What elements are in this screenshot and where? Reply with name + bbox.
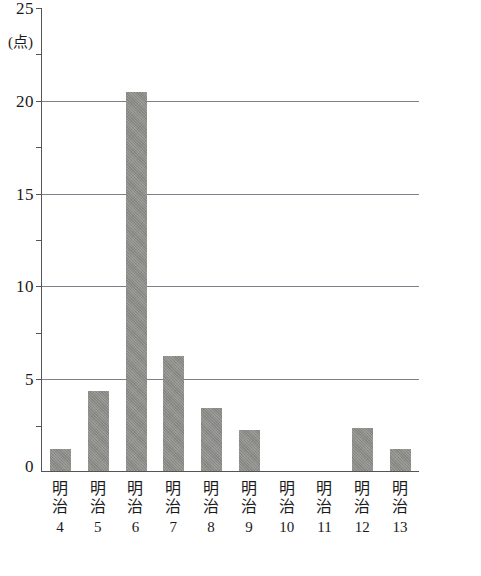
y-tick-label-5: 5 [25,371,34,388]
bar-meiji-8 [201,408,222,471]
x-label-era-5: 明治 [90,480,106,516]
x-label-year-13: 13 [393,518,408,536]
y-axis-unit-label: (点) [8,35,33,50]
x-label-era-6: 明治 [127,480,143,516]
bar-slot-meiji-9 [231,8,269,471]
x-label-meiji-10: 明治 10 [268,476,306,572]
x-label-era-4: 明治 [52,480,68,516]
x-label-era-13: 明治 [392,480,408,516]
bar-slot-meiji-10 [268,8,306,471]
bar-meiji-13 [390,449,411,471]
y-axis-labels: 25 (点) 20 15 10 5 0 [0,0,40,576]
bar-slot-meiji-7 [155,8,193,471]
bar-meiji-9 [239,430,260,471]
x-axis-labels: 明治 4 明治 5 明治 6 明治 7 明治 8 明治 9 明治 10 明治 1 [41,476,419,572]
y-tick-label-0: 0 [25,458,34,475]
x-label-meiji-12: 明治 12 [343,476,381,572]
x-label-meiji-8: 明治 8 [192,476,230,572]
x-label-meiji-9: 明治 9 [230,476,268,572]
x-label-year-6: 6 [132,518,140,536]
x-label-era-8: 明治 [203,480,219,516]
bar-slot-meiji-6 [117,8,155,471]
x-label-meiji-11: 明治 11 [306,476,344,572]
bar-slot-meiji-11 [306,8,344,471]
y-tick-label-20: 20 [16,92,34,109]
bar-slot-meiji-8 [193,8,231,471]
x-label-era-7: 明治 [165,480,181,516]
x-label-year-9: 9 [245,518,253,536]
y-tick-label-10: 10 [16,278,34,295]
x-label-era-12: 明治 [354,480,370,516]
bar-chart: 25 (点) 20 15 10 5 0 [0,0,481,576]
x-label-year-8: 8 [207,518,215,536]
x-label-meiji-5: 明治 5 [79,476,117,572]
y-tick-label-15: 15 [16,185,34,202]
plot-area [41,8,419,472]
x-label-era-9: 明治 [241,480,257,516]
x-label-year-4: 4 [56,518,64,536]
bar-meiji-12 [352,428,373,471]
bar-slot-meiji-5 [80,8,118,471]
bar-meiji-6 [126,92,147,471]
bar-meiji-4 [50,449,71,471]
x-label-year-5: 5 [94,518,102,536]
x-label-meiji-13: 明治 13 [381,476,419,572]
x-label-year-11: 11 [317,518,331,536]
bar-meiji-7 [163,356,184,471]
bar-slot-meiji-4 [42,8,80,471]
x-label-year-7: 7 [170,518,178,536]
y-tick-label-25: 25 [16,0,34,17]
bar-slot-meiji-12 [344,8,382,471]
x-label-era-11: 明治 [316,480,332,516]
x-label-meiji-6: 明治 6 [117,476,155,572]
bars-layer [42,8,419,471]
bar-meiji-5 [88,391,109,471]
x-label-year-10: 10 [279,518,294,536]
bar-slot-meiji-13 [381,8,419,471]
x-label-year-12: 12 [355,518,370,536]
x-label-meiji-7: 明治 7 [154,476,192,572]
x-label-era-10: 明治 [279,480,295,516]
x-label-meiji-4: 明治 4 [41,476,79,572]
